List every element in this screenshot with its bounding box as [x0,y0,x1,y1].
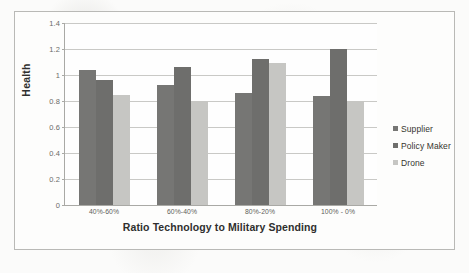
y-axis-title: Health [20,25,32,135]
y-axis-tick-label: 0 [56,201,60,210]
bar[interactable] [79,70,96,205]
x-axis-tick-label: 40%-60% [65,208,143,215]
x-axis-tick-label: 60%-40% [143,208,221,215]
bar[interactable] [269,63,286,205]
bar[interactable] [347,101,364,205]
legend-item[interactable]: Supplier [393,120,469,137]
legend-item[interactable]: Drone [393,154,469,171]
y-axis-tick-label: 0.4 [49,149,60,158]
bar-group [221,23,299,205]
bar[interactable] [113,95,130,206]
legend-item[interactable]: Policy Maker [393,137,469,154]
bar-group [299,23,377,205]
legend-label: Policy Maker [401,141,451,151]
x-axis-tick-labels: 40%-60%60%-40%80%-20%100% - 0% [65,208,377,215]
bar[interactable] [157,85,174,205]
plot-area-wrapper: 00.20.40.60.811.21.4 [65,23,377,205]
legend-label: Supplier [401,124,433,134]
legend-swatch-icon [393,126,398,131]
bar-group [143,23,221,205]
y-axis-tick-label: 0.8 [49,97,60,106]
bar[interactable] [252,59,269,205]
bar[interactable] [174,67,191,205]
bar[interactable] [191,101,208,205]
bar[interactable] [330,49,347,205]
y-axis-tick-label: 0.2 [49,175,60,184]
y-axis-tick-mark [62,205,65,206]
x-axis-tick-label: 80%-20% [221,208,299,215]
y-axis-tick-label: 1.2 [49,45,60,54]
bar[interactable] [313,96,330,205]
y-axis-tick-label: 0.6 [49,123,60,132]
chart-frame: Health 00.20.40.60.811.21.4 40%-60%60%-4… [14,11,455,250]
legend-label: Drone [401,158,425,168]
plot-area: 00.20.40.60.811.21.4 [65,23,377,205]
y-axis-tick-label: 1 [56,71,60,80]
legend: SupplierPolicy MakerDrone [393,120,469,171]
gridline [65,205,377,206]
scanned-page: Health 00.20.40.60.811.21.4 40%-60%60%-4… [0,0,469,273]
legend-swatch-icon [393,160,398,165]
bar[interactable] [235,93,252,205]
y-axis-tick-label: 1.4 [49,19,60,28]
x-axis-title: Ratio Technology to Military Spending [55,221,385,233]
bar-group [65,23,143,205]
legend-swatch-icon [393,143,398,148]
x-axis-tick-label: 100% - 0% [299,208,377,215]
bar[interactable] [96,80,113,205]
bar-groups [65,23,377,205]
